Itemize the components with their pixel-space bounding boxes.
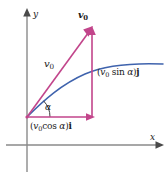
vector-origin-dot bbox=[25, 115, 28, 118]
initial-velocity-vector-label: v0 bbox=[78, 10, 88, 22]
x-axis-arrowhead bbox=[156, 141, 165, 149]
initial-speed-label: v0 bbox=[44, 59, 54, 70]
vcomp-sin: sin bbox=[109, 67, 127, 77]
horizontal-component-arrowhead bbox=[86, 113, 95, 120]
vertical-component-label: (v0 sin α)j bbox=[97, 68, 139, 78]
x-axis bbox=[6, 141, 164, 149]
hcomp-unit-i: i bbox=[68, 121, 71, 131]
horizontal-component-vector bbox=[27, 113, 95, 120]
projectile-velocity-diagram: y x v0 v0 α (v0 sin α)j (v0cos α)i bbox=[0, 0, 167, 174]
launch-angle-label: α bbox=[45, 103, 51, 112]
initial-velocity-line bbox=[27, 33, 89, 118]
horizontal-component-label: (v0cos α)i bbox=[30, 122, 72, 132]
initial-velocity-vector bbox=[27, 26, 93, 117]
y-axis bbox=[23, 8, 31, 172]
x-axis-label: x bbox=[150, 133, 155, 142]
y-axis-label: y bbox=[33, 10, 38, 19]
diagram-canvas bbox=[0, 0, 167, 174]
v0-scalar-subscript: 0 bbox=[49, 62, 53, 71]
vcomp-unit-j: j bbox=[136, 67, 139, 77]
v0-vector-subscript: 0 bbox=[83, 14, 88, 22]
hcomp-cos: cos bbox=[42, 121, 59, 131]
y-axis-arrowhead bbox=[23, 8, 31, 17]
